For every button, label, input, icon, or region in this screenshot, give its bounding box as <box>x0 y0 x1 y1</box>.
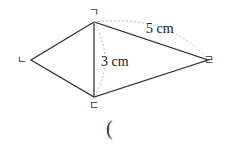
kite-diagram <box>0 0 238 148</box>
vertex-label-g: ㄱ <box>89 7 99 18</box>
vertex-label-n: ㄴ <box>17 55 27 66</box>
vertex-label-d: ㄷ <box>89 100 99 111</box>
measurement-3cm: 3 cm <box>101 55 129 69</box>
measurement-5cm: 5 cm <box>146 22 174 36</box>
vertex-label-r: ㄹ <box>204 55 214 66</box>
answer-blank: ( <box>106 118 113 138</box>
